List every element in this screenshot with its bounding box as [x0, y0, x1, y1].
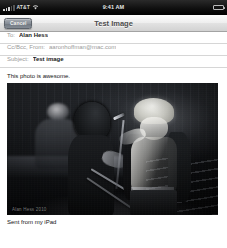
field-row-subject[interactable]: Subject: Test image: [0, 56, 227, 68]
cancel-button[interactable]: Cancel: [4, 18, 32, 29]
status-bar-right: [213, 5, 224, 10]
signal-bars-icon: [3, 5, 15, 11]
compose-area: To: Alan Hess Cc/Bcc, From: aaronhoffman…: [0, 32, 227, 248]
carrier-label: AT&T: [17, 5, 30, 10]
subject-field-value: Test image: [33, 56, 64, 62]
guitarist-figure: [64, 102, 119, 216]
status-bar-left: AT&T: [3, 4, 39, 11]
subject-field-label: Subject:: [7, 56, 29, 62]
page-title: Test Image: [0, 15, 227, 32]
to-field-label: To:: [7, 32, 15, 38]
mail-body[interactable]: This photo is awesome.: [0, 68, 227, 215]
attachment-photo[interactable]: Alan Hess 2010: [7, 83, 218, 215]
wifi-icon: [32, 4, 39, 11]
status-bar: AT&T 9:41 AM: [0, 0, 227, 15]
photo-image: [7, 83, 218, 215]
navigation-bar: Cancel Test Image: [0, 15, 227, 32]
to-field-value: Alan Hess: [19, 32, 48, 38]
cc-bcc-from-field-value: aaronhoffman@mac.com: [49, 44, 116, 50]
cc-bcc-from-field-label: Cc/Bcc, From:: [7, 44, 45, 50]
singer-figure: [123, 98, 188, 215]
battery-icon: [213, 5, 224, 10]
body-text: This photo is awesome.: [7, 72, 220, 80]
body-text-content: This photo is awesome.: [7, 73, 70, 79]
field-row-cc-bcc-from[interactable]: Cc/Bcc, From: aaronhoffman@mac.com: [0, 44, 227, 56]
ipad-mail-compose-screen: AT&T 9:41 AM Cancel Test Image To: Alan …: [0, 0, 227, 248]
email-signature: Sent from my iPad: [0, 215, 227, 225]
field-row-to[interactable]: To: Alan Hess: [0, 32, 227, 44]
